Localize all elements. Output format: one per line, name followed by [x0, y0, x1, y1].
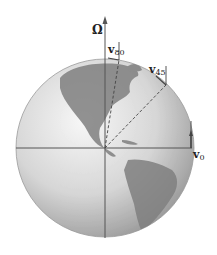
v45-subscript: 45 [155, 68, 165, 77]
globe-illustration [0, 0, 217, 255]
v45-label: v45 [149, 60, 166, 77]
v80-label: v80 [108, 40, 125, 57]
earth-rotation-diagram: Ω v80 v45 v0 [0, 0, 217, 255]
axis-arrowhead-icon [103, 16, 108, 24]
v80-subscript: 80 [114, 48, 124, 57]
v0-label: v0 [193, 145, 205, 162]
v0-subscript: 0 [199, 153, 204, 162]
omega-label: Ω [92, 24, 103, 36]
